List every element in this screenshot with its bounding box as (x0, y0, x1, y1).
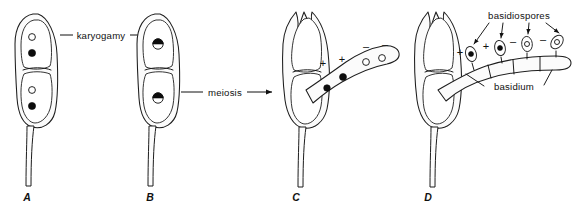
meiosis-label: meiosis (208, 87, 242, 98)
panel-d-sign-2-plus: + (483, 40, 489, 52)
panel-d-basidiospore-4 (548, 33, 566, 57)
figure-canvas: A karyogamy B (0, 0, 575, 215)
panel-a: A (15, 14, 58, 203)
panel-c-sign-1-plus: + (320, 57, 326, 69)
panel-c-stalk (298, 127, 306, 187)
karyogamy-annotation: karyogamy (60, 30, 147, 41)
panel-a-letter: A (22, 191, 31, 203)
panel-d-sterigma-1 (472, 63, 474, 70)
basidium-label: basidium (494, 81, 534, 92)
panel-d-spore-2-nucleus-dark (498, 46, 503, 51)
basidiospores-annotation: basidiospores (474, 10, 559, 44)
panel-a-stalk (26, 126, 34, 186)
panel-b: B (137, 14, 180, 203)
panel-c-nucleus-2-dark (340, 74, 347, 81)
panel-b-letter: B (146, 191, 154, 203)
panel-b-stalk (148, 126, 156, 186)
basidiospores-leader-2 (501, 23, 503, 38)
panel-c-sign-2-plus: + (339, 53, 345, 65)
basidium-leader-right (544, 70, 552, 85)
basidium-development-figure: A karyogamy B (0, 0, 575, 215)
meiosis-annotation: meiosis (181, 87, 272, 98)
panel-a-upper-cell (21, 20, 52, 69)
basidiospores-leader-4 (546, 23, 559, 33)
panel-d-basidiospore-2 (493, 39, 507, 63)
panel-c-nucleus-1-dark (324, 85, 331, 92)
panel-c-sign-4-minus: – (382, 38, 389, 50)
panel-a-nucleus-4-dark (28, 102, 35, 109)
panel-d-sign-1-plus: + (457, 46, 463, 58)
panel-d-spore-1-nucleus-dark (469, 52, 474, 57)
panel-d-letter: D (424, 191, 432, 203)
panel-a-nucleus-3-light (29, 87, 36, 94)
panel-c-sign-3-minus: – (363, 40, 370, 52)
panel-a-nucleus-1-light (29, 34, 36, 41)
panel-c: + + – – C (283, 12, 400, 203)
karyogamy-label: karyogamy (77, 30, 126, 41)
panel-d-basidiospore-1 (464, 45, 479, 70)
panel-a-lower-cell (21, 72, 52, 123)
panel-d-sign-3-minus: – (510, 35, 517, 47)
panel-d-stalk (430, 127, 438, 187)
panel-b-nucleus-1-fused (153, 39, 163, 49)
panel-d-basidiospore-3 (521, 36, 533, 59)
panel-c-nucleus-3-light (363, 59, 370, 66)
panel-d-sign-4-minus: – (540, 33, 547, 45)
panel-d-spore-3-nucleus-light (525, 42, 530, 47)
panel-c-nucleus-4-light (379, 55, 386, 62)
panel-d-spore-4-nucleus-light (555, 40, 560, 45)
basidiospores-leader-3 (528, 23, 529, 34)
panel-c-letter: C (292, 191, 300, 203)
panel-d: + + – – D (415, 12, 571, 203)
panel-a-nucleus-2-dark (28, 49, 35, 56)
basidiospores-label: basidiospores (488, 10, 550, 21)
panel-b-nucleus-2-fused (153, 93, 163, 103)
